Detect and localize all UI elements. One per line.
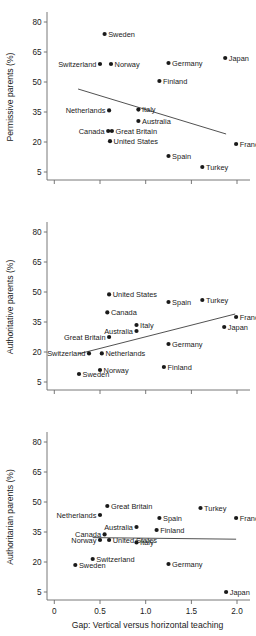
x-tick-label: 1.0 xyxy=(140,607,152,616)
data-point-marker xyxy=(73,563,77,567)
data-point-marker xyxy=(110,129,114,133)
y-tick-label: 80 xyxy=(32,228,42,237)
data-point: Switzerland xyxy=(58,60,102,69)
data-point: Japan xyxy=(222,323,248,332)
y-tick-label: 80 xyxy=(32,18,42,27)
y-tick-label: 65 xyxy=(32,468,42,477)
data-point-label: Sweden xyxy=(83,370,110,379)
plot-area-3: 8065503520500.51.01.52.0Great BritainTur… xyxy=(0,420,256,636)
data-point-marker xyxy=(136,119,140,123)
data-point-label: Finland xyxy=(168,363,192,372)
data-point-label: Germany xyxy=(172,560,203,569)
data-point: France xyxy=(234,514,256,523)
data-point-label: Japan xyxy=(230,588,250,597)
y-tick-label: 80 xyxy=(32,438,42,447)
y-tick-label: 50 xyxy=(32,78,42,87)
data-point: Netherlands xyxy=(66,106,112,115)
data-point-marker xyxy=(107,108,111,112)
data-point-marker xyxy=(98,513,102,517)
data-point-marker xyxy=(223,56,227,60)
data-point-label: France xyxy=(240,514,256,523)
data-point-label: Turkey xyxy=(206,163,229,172)
data-point-marker xyxy=(234,142,238,146)
data-point-marker xyxy=(98,62,102,66)
x-tick-label: 1.5 xyxy=(186,607,198,616)
data-point-marker xyxy=(103,32,107,36)
data-point: Great Britain xyxy=(110,127,157,136)
data-point-marker xyxy=(134,540,138,544)
data-point-marker xyxy=(77,372,81,376)
data-point: Netherlands xyxy=(57,511,103,520)
y-tick-label: 5 xyxy=(37,378,42,387)
y-tick-label: 5 xyxy=(37,168,42,177)
data-point: Norway xyxy=(109,60,140,69)
data-point-label: Norway xyxy=(71,536,96,545)
data-point: Turkey xyxy=(200,296,228,305)
data-point-marker xyxy=(166,61,170,65)
data-point: Switzerland xyxy=(47,349,91,358)
data-point: Great Britain xyxy=(64,333,111,342)
data-point: Italy xyxy=(134,321,154,330)
data-point: Germany xyxy=(166,560,202,569)
y-tick-label: 20 xyxy=(32,348,42,357)
data-point-marker xyxy=(98,538,102,542)
data-point-label: Italy xyxy=(140,538,154,547)
data-point-label: Norway xyxy=(115,60,140,69)
data-point: France xyxy=(234,140,256,149)
y-tick-label: 35 xyxy=(32,318,42,327)
x-tick-label: 0.5 xyxy=(94,607,106,616)
data-point: Sweden xyxy=(103,30,135,39)
plot-area-2: 80655035205United StatesSpainTurkeyCanad… xyxy=(0,210,256,420)
data-point-marker xyxy=(166,300,170,304)
data-point-marker xyxy=(198,506,202,510)
data-point: Australia xyxy=(104,523,138,532)
data-point: Netherlands xyxy=(100,349,146,358)
data-point: Sweden xyxy=(77,370,109,379)
x-axis-title: Gap: Vertical versus horizontal teaching xyxy=(72,620,224,630)
data-point-marker xyxy=(157,79,161,83)
data-point-marker xyxy=(224,590,228,594)
y-tick-label: 65 xyxy=(32,258,42,267)
data-point-label: Sweden xyxy=(108,30,135,39)
data-point-label: France xyxy=(240,313,256,322)
data-point: Germany xyxy=(166,340,202,349)
data-point-marker xyxy=(107,335,111,339)
data-point-label: Australia xyxy=(142,117,172,126)
data-point-marker xyxy=(162,365,166,369)
data-point-label: Spain xyxy=(163,514,182,523)
panel-3: 8065503520500.51.01.52.0Great BritainTur… xyxy=(0,420,256,636)
data-point-marker xyxy=(234,516,238,520)
y-tick-label: 20 xyxy=(32,138,42,147)
panel-2: 80655035205United StatesSpainTurkeyCanad… xyxy=(0,210,256,420)
data-point-marker xyxy=(105,504,109,508)
data-point-label: Japan xyxy=(229,54,249,63)
data-point-marker xyxy=(166,562,170,566)
data-point-marker xyxy=(200,298,204,302)
data-point-label: Italy xyxy=(142,105,156,114)
data-point-label: France xyxy=(240,140,256,149)
data-point-label: Spain xyxy=(172,298,191,307)
data-point-marker xyxy=(134,323,138,327)
data-point: United States xyxy=(107,290,157,299)
data-point-marker xyxy=(234,315,238,319)
data-point: France xyxy=(234,313,256,322)
y-tick-label: 50 xyxy=(32,288,42,297)
data-point-label: Turkey xyxy=(206,296,229,305)
data-point-marker xyxy=(106,129,110,133)
y-tick-label: 65 xyxy=(32,48,42,57)
data-point-label: Australia xyxy=(104,523,134,532)
data-point-label: Italy xyxy=(140,321,154,330)
data-point: Finland xyxy=(162,363,192,372)
data-point-marker xyxy=(105,310,109,314)
data-point-label: Canada xyxy=(79,127,106,136)
data-point-marker xyxy=(87,351,91,355)
y-axis-title: Authoritarian parents (%) xyxy=(5,469,15,565)
data-point: Australia xyxy=(104,327,138,336)
data-point-label: Switzerland xyxy=(47,349,85,358)
y-axis-title: Permissive parents (%) xyxy=(5,52,15,141)
y-axis-title: Authoritative parents (%) xyxy=(5,260,15,355)
data-point-label: Australia xyxy=(104,327,134,336)
data-point-marker xyxy=(109,62,113,66)
data-point-marker xyxy=(200,165,204,169)
x-tick-label: 0 xyxy=(52,607,57,616)
